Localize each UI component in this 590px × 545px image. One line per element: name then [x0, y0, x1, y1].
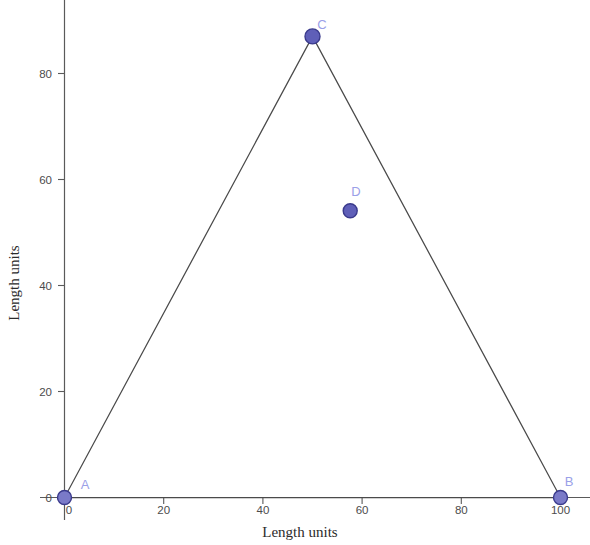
point-marker-d[interactable]	[343, 204, 357, 218]
vertex-label-c: C	[317, 17, 326, 32]
vertex-label-b: B	[565, 474, 574, 489]
y-tick-label-60: 60	[39, 174, 52, 186]
x-tick-label-100: 100	[551, 504, 570, 516]
x-axis-title: Length units	[262, 524, 338, 540]
y-tick-label-80: 80	[39, 68, 52, 80]
chart-figure: 0 20 40 60 80 0 20 40 60 80 100	[0, 0, 590, 545]
point-marker-b[interactable]	[554, 491, 568, 505]
y-tick-label-40: 40	[39, 280, 52, 292]
y-tick-label-0: 0	[46, 492, 52, 504]
y-axis-tick-labels: 0 20 40 60 80	[39, 68, 52, 504]
x-axis-ticks	[65, 498, 561, 505]
vertex-label-d: D	[351, 184, 360, 199]
triangle-shape	[65, 36, 561, 497]
x-tick-label-40: 40	[257, 504, 270, 516]
x-axis-tick-labels: 0 20 40 60 80 100	[66, 504, 570, 516]
y-tick-label-20: 20	[39, 386, 52, 398]
x-tick-label-20: 20	[157, 504, 170, 516]
x-tick-label-0: 0	[66, 504, 72, 516]
y-axis-ticks	[58, 74, 65, 498]
vertex-label-a: A	[81, 477, 90, 492]
y-axis-title: Length units	[6, 245, 22, 321]
x-tick-label-60: 60	[356, 504, 369, 516]
x-tick-label-80: 80	[455, 504, 468, 516]
point-marker-a[interactable]	[58, 491, 72, 505]
triangle-scatter-plot: 0 20 40 60 80 0 20 40 60 80 100	[0, 0, 590, 545]
